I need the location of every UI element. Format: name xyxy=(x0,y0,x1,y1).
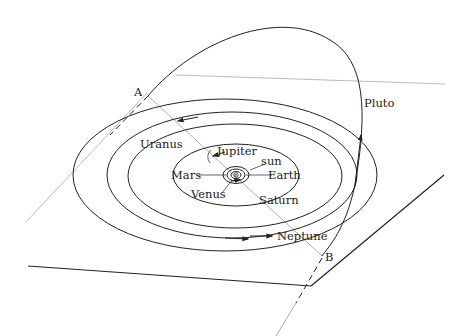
point-a-label: A xyxy=(133,85,143,99)
saturn-label: Saturn xyxy=(259,193,299,207)
jupiter-label: Jupiter xyxy=(216,144,257,158)
point-b-label: B xyxy=(325,250,333,264)
uranus-label: Uranus xyxy=(140,137,183,151)
diagram-canvas: A B Uranus Jupiter sun Mars Earth Venus … xyxy=(0,0,468,336)
neptune-label: Neptune xyxy=(277,229,328,243)
earth-label: Earth xyxy=(268,168,301,182)
sun-label: sun xyxy=(261,154,282,168)
mars-label: Mars xyxy=(171,168,201,182)
orbit-direction-arrows xyxy=(178,117,272,252)
venus-label: Venus xyxy=(190,187,226,201)
orbit-pluto xyxy=(110,27,362,336)
orbit-saturn xyxy=(107,112,357,238)
pluto-label: Pluto xyxy=(364,96,394,110)
